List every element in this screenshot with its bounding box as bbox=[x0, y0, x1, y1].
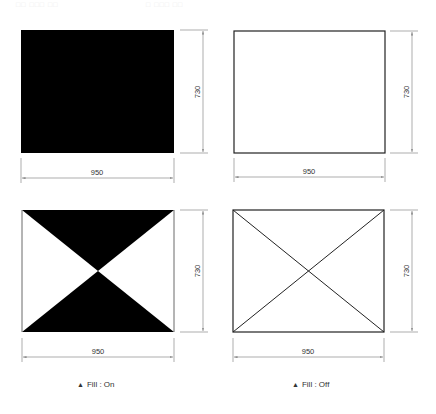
caption-text: Fill : Off bbox=[302, 380, 329, 389]
height-label: 730 bbox=[402, 265, 411, 278]
caption-fill-on: ▲Fill : On bbox=[77, 380, 115, 389]
outline-rectangle bbox=[234, 31, 385, 153]
panel-fill-on-hourglass: 730 950 bbox=[22, 210, 208, 362]
width-label: 950 bbox=[91, 168, 104, 177]
panel-fill-off-cross: 730 950 bbox=[233, 210, 418, 362]
panel-fill-on-rectangle: 730 950 bbox=[21, 30, 208, 183]
triangle-marker-icon: ▲ bbox=[77, 381, 84, 388]
diagram-canvas: 730 950 730 950 bbox=[0, 0, 436, 414]
triangle-marker-icon: ▲ bbox=[292, 381, 299, 388]
bottom-triangle bbox=[22, 271, 174, 332]
width-label: 950 bbox=[303, 167, 316, 176]
height-label: 730 bbox=[402, 86, 411, 99]
height-label: 730 bbox=[193, 86, 202, 99]
caption-fill-off: ▲Fill : Off bbox=[292, 380, 329, 389]
caption-text: Fill : On bbox=[87, 380, 115, 389]
width-label: 950 bbox=[302, 347, 315, 356]
width-label: 950 bbox=[92, 347, 105, 356]
height-label: 730 bbox=[193, 265, 202, 278]
panel-fill-off-rectangle: 730 950 bbox=[234, 31, 418, 182]
top-triangle bbox=[22, 210, 174, 271]
filled-rectangle bbox=[21, 30, 174, 153]
